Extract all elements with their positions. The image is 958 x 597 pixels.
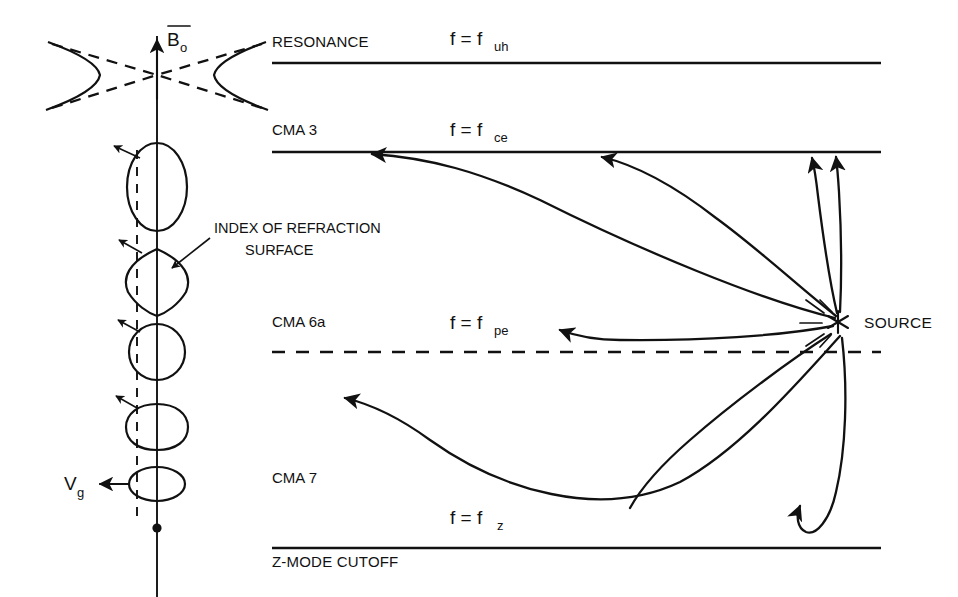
ray-ce-1 bbox=[372, 154, 835, 318]
b-field-label: B o bbox=[167, 26, 190, 55]
freq-label-ce: f = f ce bbox=[450, 119, 508, 145]
freq-label-z-main: f = f bbox=[450, 507, 483, 528]
ray-cma7-hook bbox=[798, 338, 846, 533]
freq-label-uh: f = f uh bbox=[450, 28, 508, 54]
freq-label-z-sub: z bbox=[497, 518, 504, 533]
freq-label-ce-sub: ce bbox=[494, 130, 508, 145]
group-velocity-label-main: V bbox=[64, 473, 77, 494]
label-z-mode-cutoff: Z-MODE CUTOFF bbox=[272, 553, 398, 570]
surface-lens-pointer bbox=[119, 240, 142, 253]
b-field-label-sub: o bbox=[180, 40, 187, 55]
group-velocity-label-sub: g bbox=[77, 485, 84, 500]
label-cma-3: CMA 3 bbox=[272, 121, 317, 138]
ray-ce-4 bbox=[836, 157, 841, 312]
label-resonance: RESONANCE bbox=[272, 33, 369, 50]
freq-label-pe-sub: pe bbox=[494, 323, 508, 338]
ray-pe-horizontal bbox=[560, 326, 833, 340]
index-surface-pointer bbox=[172, 238, 210, 268]
freq-label-pe: f = f pe bbox=[450, 312, 508, 338]
group-velocity-label: V g bbox=[64, 473, 84, 500]
b-field-label-main: B bbox=[167, 29, 180, 50]
source-rays-decor bbox=[800, 300, 832, 347]
surface-hyperbola-right bbox=[214, 42, 268, 110]
surface-peanut-pointer bbox=[116, 396, 137, 408]
ray-ce-3 bbox=[812, 158, 837, 313]
freq-label-pe-main: f = f bbox=[450, 312, 483, 333]
ray-cma7-steep bbox=[630, 334, 831, 508]
freq-label-uh-sub: uh bbox=[494, 39, 508, 54]
surface-hyperbola-left bbox=[46, 42, 100, 110]
source-label: SOURCE bbox=[864, 314, 932, 331]
index-surface-label-line2: SURFACE bbox=[245, 242, 314, 258]
figure-canvas: RESONANCE Z-MODE CUTOFF CMA 3 CMA 6a CMA… bbox=[0, 0, 958, 597]
label-cma-6a: CMA 6a bbox=[272, 313, 326, 330]
ray-cma7-long bbox=[345, 336, 840, 499]
surface-point bbox=[152, 523, 161, 532]
source-marker bbox=[828, 311, 848, 333]
label-cma-7: CMA 7 bbox=[272, 469, 317, 486]
ray-ce-2 bbox=[602, 157, 836, 316]
index-surface-label-line1: INDEX OF REFRACTION bbox=[214, 220, 381, 236]
freq-label-z: f = f z bbox=[450, 507, 504, 533]
freq-label-ce-main: f = f bbox=[450, 119, 483, 140]
ray-diagram-svg: RESONANCE Z-MODE CUTOFF CMA 3 CMA 6a CMA… bbox=[0, 0, 958, 597]
freq-label-uh-main: f = f bbox=[450, 28, 483, 49]
